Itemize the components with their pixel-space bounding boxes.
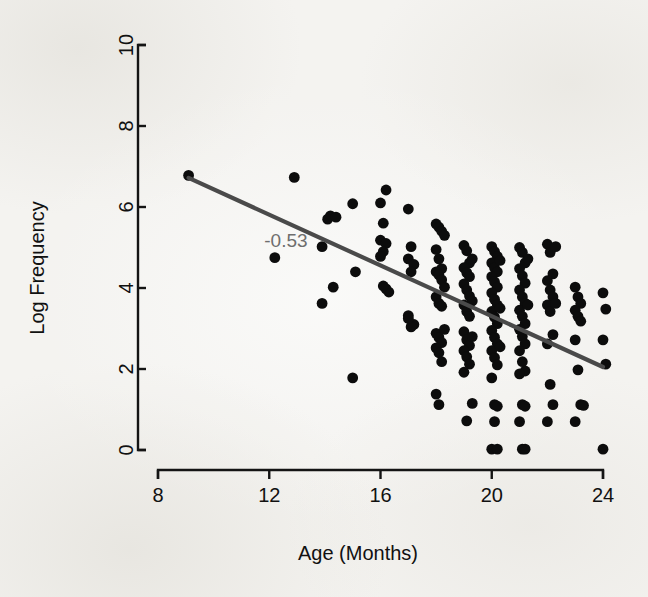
regression-line [189,178,603,367]
y-axis-tick-label: 8 [115,120,137,131]
y-axis-spine [138,45,146,450]
data-point [492,444,503,455]
data-point [545,379,556,390]
data-point [495,341,506,352]
y-axis-tick-label: 4 [115,282,137,293]
data-point [495,303,506,314]
data-point [439,324,450,335]
data-point [375,198,386,209]
data-point [464,311,475,322]
plot-canvas: 0246810 812162024 -0.53 Age (Months) Log… [0,0,648,597]
correlation-label: -0.53 [264,230,307,251]
y-axis: 0246810 [115,34,146,456]
data-point [492,401,503,412]
data-point [575,316,586,327]
data-point [269,252,280,263]
data-point [347,373,358,384]
data-point [550,298,561,309]
data-point [523,300,534,311]
data-point [378,218,389,229]
data-point [350,266,361,277]
data-point [495,255,506,266]
data-point [598,444,609,455]
data-point [573,364,584,375]
data-point [431,389,442,400]
x-axis: 812162024 [152,470,614,506]
data-point [520,401,531,412]
data-point [548,399,559,410]
x-axis-tick-label: 24 [592,484,614,506]
data-point [492,360,503,371]
data-point [381,185,392,196]
data-point [467,253,478,264]
data-point [467,398,478,409]
x-axis-title: Age (Months) [298,542,418,564]
x-axis-tick-label: 12 [258,484,280,506]
data-point [317,241,328,252]
data-point [520,444,531,455]
x-axis-tick-label: 16 [369,484,391,506]
data-point [570,334,581,345]
data-point [436,356,447,367]
data-point [548,329,559,340]
data-point [331,212,342,223]
data-point [467,331,478,342]
y-axis-tick-label: 2 [115,363,137,374]
y-axis-tick-label: 0 [115,444,137,455]
data-point [598,334,609,345]
data-point [403,204,414,215]
data-point [550,241,561,252]
y-axis-tick-label: 6 [115,201,137,212]
data-point [434,253,445,264]
data-point [570,416,581,427]
data-point [542,416,553,427]
data-point [434,399,445,410]
data-point [523,253,534,264]
data-point [514,345,525,356]
data-point [431,244,442,255]
data-points-group [183,170,611,455]
data-point [289,172,300,183]
data-point [514,416,525,427]
data-point [328,282,339,293]
data-point [570,282,581,293]
data-point [600,304,611,315]
data-point [375,251,386,262]
scatter-plot-figure: 0246810 812162024 -0.53 Age (Months) Log… [0,0,648,597]
x-axis-tick-label: 20 [481,484,503,506]
data-point [542,275,553,286]
regression-line-segment [189,178,603,367]
data-point [406,241,417,252]
data-point [317,298,328,309]
data-point [378,281,389,292]
y-axis-tick-label: 10 [115,34,137,56]
data-point [598,287,609,298]
data-point [486,373,497,384]
x-axis-tick-label: 8 [152,484,163,506]
data-point [439,230,450,241]
data-point [436,301,447,312]
data-point [514,368,525,379]
correlation-annotation: -0.53 [264,230,307,251]
data-point [517,356,528,367]
data-point [403,313,414,324]
data-point [461,415,472,426]
data-point [489,416,500,427]
data-point [578,400,589,411]
y-axis-title: Log Frequency [26,201,48,334]
data-point [347,198,358,209]
data-point [459,367,470,378]
